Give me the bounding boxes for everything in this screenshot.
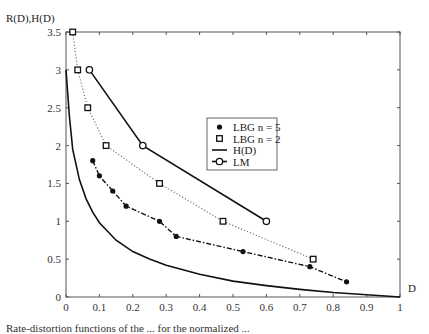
y-tick-label: 2 xyxy=(56,140,62,152)
y-axis-title: R(D),H(D) xyxy=(6,12,55,25)
dot-marker xyxy=(217,124,222,129)
dot-marker xyxy=(97,173,102,178)
dot-marker xyxy=(240,249,245,254)
y-tick-label: 1 xyxy=(56,215,62,227)
y-tick-label: 3 xyxy=(56,64,62,76)
x-tick-label: 0.9 xyxy=(360,301,374,313)
x-tick-label: 0 xyxy=(63,301,69,313)
dot-marker xyxy=(110,188,115,193)
legend-label: LBG n = 2 xyxy=(233,133,280,145)
x-tick-label: 0.4 xyxy=(193,301,207,313)
dot-marker xyxy=(174,234,179,239)
x-tick-label: 0.2 xyxy=(126,301,140,313)
circle-marker xyxy=(140,142,146,148)
circle-marker xyxy=(216,158,222,164)
y-tick-label: 3.5 xyxy=(47,26,61,38)
square-marker xyxy=(70,29,76,35)
x-tick-label: 1 xyxy=(397,301,403,313)
square-marker xyxy=(157,181,163,187)
square-marker xyxy=(217,136,223,142)
dot-marker xyxy=(124,204,129,209)
circle-marker xyxy=(263,218,269,224)
dot-marker xyxy=(344,279,349,284)
x-tick-label: 0.3 xyxy=(159,301,173,313)
legend-label: LBG n = 5 xyxy=(233,121,281,133)
circle-marker xyxy=(86,67,92,73)
legend-label: LM xyxy=(233,156,250,168)
dot-marker xyxy=(90,158,95,163)
x-tick-label: 0.6 xyxy=(260,301,274,313)
series-h-d- xyxy=(66,70,400,297)
x-tick-label: 0.1 xyxy=(93,301,107,313)
y-tick-label: 1.5 xyxy=(47,177,61,189)
square-marker xyxy=(220,218,226,224)
dot-marker xyxy=(307,264,312,269)
square-marker xyxy=(310,256,316,262)
square-marker xyxy=(103,143,109,149)
x-tick-label: 0.5 xyxy=(226,301,240,313)
figure-caption: Rate-distortion functions of the ... for… xyxy=(6,322,250,334)
x-tick-label: 0.7 xyxy=(293,301,307,313)
square-marker xyxy=(75,67,81,73)
x-tick-label: 0.8 xyxy=(326,301,340,313)
y-tick-label: 2.5 xyxy=(47,102,61,114)
square-marker xyxy=(85,105,91,111)
y-tick-label: 0 xyxy=(56,291,62,303)
x-axis-title: D xyxy=(408,282,416,294)
dot-marker xyxy=(157,219,162,224)
y-tick-label: 0.5 xyxy=(47,253,61,265)
